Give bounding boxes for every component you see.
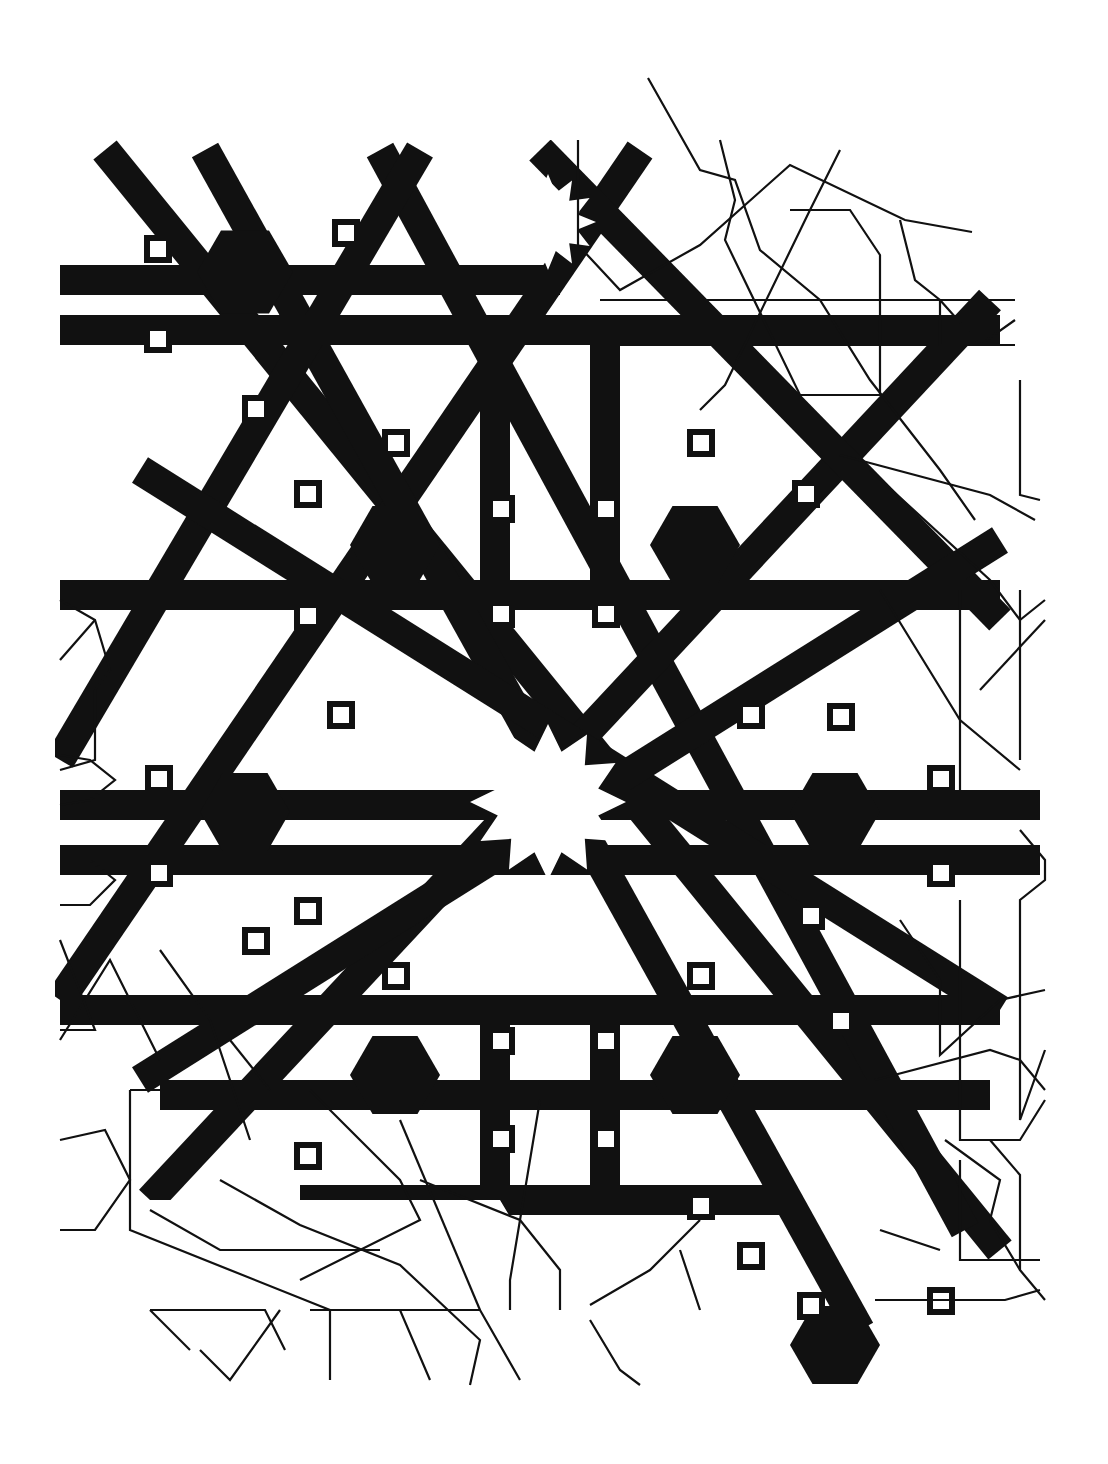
square-knot xyxy=(740,704,762,726)
square-knot xyxy=(690,965,712,987)
square-knot xyxy=(490,498,512,520)
square-knot xyxy=(245,398,267,420)
square-knot xyxy=(830,706,852,728)
square-knot xyxy=(690,432,712,454)
square-knot xyxy=(830,1010,852,1032)
square-knot xyxy=(795,483,817,505)
square-knot xyxy=(490,603,512,625)
square-knot xyxy=(385,432,407,454)
square-knot xyxy=(330,704,352,726)
star-pattern-canvas xyxy=(0,0,1108,1464)
square-knot xyxy=(490,1128,512,1150)
square-knot xyxy=(297,605,319,627)
square-knot xyxy=(595,498,617,520)
square-knot xyxy=(148,768,170,790)
square-knot xyxy=(245,930,267,952)
square-knot xyxy=(147,238,169,260)
square-knot xyxy=(595,603,617,625)
square-knot xyxy=(490,1030,512,1052)
square-knot xyxy=(800,905,822,927)
square-knot xyxy=(690,1195,712,1217)
square-knot xyxy=(297,1145,319,1167)
square-knot xyxy=(930,862,952,884)
square-knot xyxy=(595,1128,617,1150)
square-knot xyxy=(595,1030,617,1052)
square-knot xyxy=(740,1245,762,1267)
square-knot xyxy=(335,222,357,244)
square-knot xyxy=(385,965,407,987)
square-knot xyxy=(148,862,170,884)
square-knot xyxy=(297,900,319,922)
square-knot xyxy=(147,328,169,350)
square-knot xyxy=(800,1295,822,1317)
square-knot xyxy=(930,768,952,790)
square-knot xyxy=(297,483,319,505)
